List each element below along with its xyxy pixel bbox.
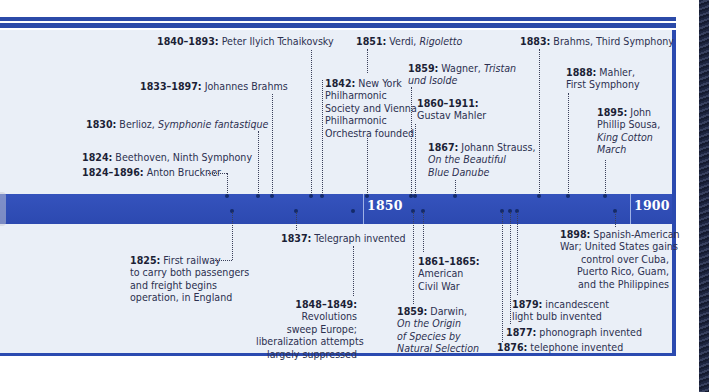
event-mahler-first: 1888: Mahler, First Symphony bbox=[566, 66, 640, 91]
marker-dot bbox=[537, 194, 541, 198]
event-telephone: 1876: telephone invented bbox=[497, 341, 623, 353]
event-beethoven: 1824: Beethoven, Ninth Symphony bbox=[82, 151, 252, 163]
event-darwin: 1859: Darwin, On the Origin of Species b… bbox=[397, 305, 479, 355]
top-rule bbox=[0, 17, 676, 21]
connector bbox=[539, 49, 540, 195]
connector bbox=[367, 49, 368, 73]
event-philharmonic: 1842: New York Philharmonic Society and … bbox=[325, 77, 417, 139]
band-edge bbox=[0, 192, 6, 226]
event-lightbulb: 1879: incandescent light bulb invented bbox=[512, 298, 609, 323]
page-edge-texture bbox=[699, 0, 709, 392]
event-civil-war: 1861–1865: American Civil War bbox=[418, 255, 480, 292]
event-telegraph: 1837: Telegraph invented bbox=[281, 232, 406, 244]
connector bbox=[502, 212, 503, 342]
marker-dot bbox=[270, 194, 274, 198]
marker-dot bbox=[256, 194, 260, 198]
connector bbox=[415, 124, 416, 195]
tick-1900 bbox=[630, 194, 631, 224]
marker-dot bbox=[320, 194, 324, 198]
marker-dot bbox=[365, 194, 369, 198]
event-phonograph: 1877: phonograph invented bbox=[506, 326, 642, 338]
event-strauss: 1867: Johann Strauss, On the Beautiful B… bbox=[428, 141, 536, 178]
event-wagner: 1859: Wagner, Tristan und Isolde bbox=[408, 62, 516, 87]
connector bbox=[272, 94, 273, 195]
event-revolutions: 1848–1849: Revolutions sweep Europe; lib… bbox=[256, 298, 357, 360]
connector bbox=[311, 50, 312, 195]
connector bbox=[296, 212, 297, 230]
year-label-1850: 1850 bbox=[367, 198, 403, 213]
connector bbox=[615, 212, 616, 227]
connector bbox=[517, 212, 518, 295]
connector bbox=[258, 131, 259, 195]
connector bbox=[227, 173, 228, 195]
event-verdi: 1851: Verdi, Rigoletto bbox=[356, 35, 462, 47]
marker-dot bbox=[413, 194, 417, 198]
connector bbox=[455, 180, 456, 195]
event-berlioz: 1830: Berlioz, Symphonie fantastique bbox=[86, 118, 268, 130]
event-brahms-third: 1883: Brahms, Third Symphony bbox=[520, 35, 674, 47]
event-railway: 1825: First railway to carry both passen… bbox=[130, 254, 249, 304]
timeline-band bbox=[0, 194, 672, 224]
connector bbox=[423, 212, 424, 252]
connector bbox=[353, 246, 354, 296]
connector bbox=[367, 138, 368, 195]
tick-1850 bbox=[363, 194, 364, 224]
year-label-1900: 1900 bbox=[634, 198, 670, 213]
connector bbox=[413, 212, 414, 304]
marker-dot bbox=[566, 194, 570, 198]
connector bbox=[510, 212, 511, 324]
marker-dot bbox=[603, 194, 607, 198]
connector bbox=[208, 173, 227, 174]
connector bbox=[411, 87, 412, 195]
event-mahler-life: 1860–1911: Gustav Mahler bbox=[417, 97, 486, 122]
connector bbox=[568, 93, 569, 195]
connector bbox=[605, 160, 606, 195]
connector bbox=[232, 212, 233, 260]
event-brahms: 1833–1897: Johannes Brahms bbox=[140, 80, 288, 92]
event-tchaikovsky: 1840–1893: Peter Ilyich Tchaikovsky bbox=[157, 35, 334, 47]
event-sousa: 1895: John Phillip Sousa, King Cotton Ma… bbox=[597, 106, 660, 156]
connector bbox=[322, 80, 323, 195]
marker-dot bbox=[225, 194, 229, 198]
event-bruckner: 1824–1896: Anton Bruckner bbox=[82, 166, 221, 178]
marker-dot bbox=[453, 194, 457, 198]
marker-dot bbox=[351, 209, 355, 213]
marker-dot bbox=[309, 194, 313, 198]
top-rule-thick bbox=[0, 23, 676, 28]
event-spanish-american-war: 1898: Spanish-American War; United State… bbox=[560, 228, 669, 290]
